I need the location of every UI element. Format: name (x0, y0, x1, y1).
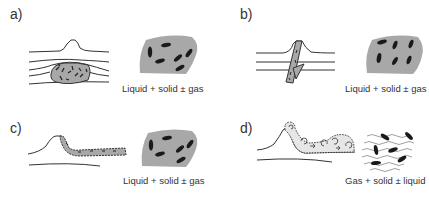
panel-c-magma-closeup (142, 129, 198, 167)
panel-b-magma-closeup (366, 36, 423, 74)
panel-d-cross-section (257, 122, 355, 162)
panel-a-magma-closeup (140, 36, 198, 74)
panel-a-cross-section (29, 40, 109, 84)
panel-c-cross-section (28, 136, 126, 166)
pyroclastic-cloud (285, 122, 354, 153)
panel-b-cross-section (256, 41, 335, 83)
lava-flow-body (60, 136, 126, 156)
diagram-canvas (0, 0, 429, 198)
panel-d-gas-closeup (362, 131, 414, 171)
sill-magma-body (51, 63, 90, 84)
